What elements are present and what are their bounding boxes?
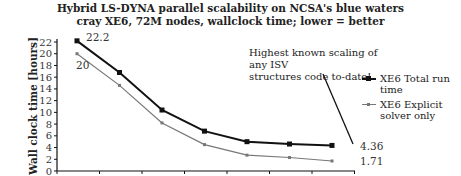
data-label-total-first: 22.2	[86, 31, 109, 43]
data-point-marker	[76, 52, 79, 55]
data-point-marker	[246, 154, 249, 157]
y-tick-label: 10	[39, 107, 52, 118]
data-point-marker	[202, 129, 207, 134]
legend-item-total-run-time: XE6 Total run time	[362, 73, 461, 95]
data-point-marker	[245, 139, 250, 144]
annotation-arrow	[323, 74, 353, 144]
y-tick-label: 12	[39, 95, 52, 106]
y-tick-label: 8	[46, 119, 52, 130]
y-axis-label: Wall clock time [hours]	[27, 37, 39, 175]
y-tick-label: 0	[46, 166, 52, 176]
data-point-marker	[287, 142, 292, 147]
legend-label: time	[380, 84, 461, 95]
y-tick-label: 16	[39, 72, 52, 83]
data-point-marker	[118, 84, 121, 87]
annotation-line-1: Highest known scaling of any ISV	[249, 47, 389, 71]
legend-item-explicit-solver: XE6 Explicit solver only	[362, 99, 461, 121]
legend-label: XE6 Total run	[380, 73, 461, 84]
data-point-marker	[331, 159, 334, 162]
data-point-marker	[117, 70, 122, 75]
legend-label: solver only	[380, 110, 461, 121]
y-tick-label: 2	[46, 154, 52, 165]
data-label-total-last: 4.36	[360, 140, 384, 152]
data-label-explicit-first: 20	[76, 59, 89, 71]
data-label-explicit-last: 1.71	[360, 155, 383, 167]
data-point-marker	[330, 143, 335, 148]
data-point-marker	[203, 143, 206, 146]
y-tick-label: 6	[46, 130, 52, 141]
data-point-marker	[288, 156, 291, 159]
legend: XE6 Total run time XE6 Explicit solver o…	[362, 73, 461, 125]
legend-label: XE6 Explicit	[380, 99, 461, 110]
data-point-marker	[161, 121, 164, 124]
legend-marker-square-icon	[362, 78, 376, 80]
y-tick-label: 14	[39, 83, 52, 94]
y-tick-label: 22	[39, 37, 52, 48]
y-tick-label: 18	[39, 60, 52, 71]
data-point-marker	[75, 38, 80, 43]
data-point-marker	[160, 108, 165, 113]
legend-marker-small-square-icon	[362, 104, 376, 105]
y-tick-label: 4	[46, 142, 52, 153]
y-tick-label: 20	[39, 48, 52, 59]
